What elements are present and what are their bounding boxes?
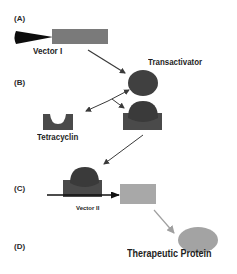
transactivator-complex-c xyxy=(63,167,102,197)
transactivator-complex-b xyxy=(123,101,162,130)
vector-1-label: Vector I xyxy=(33,46,62,56)
arrow-to-tetracyclin xyxy=(86,101,108,111)
arrow-gene-to-protein xyxy=(154,210,174,233)
vector-1-gene-rect xyxy=(52,29,108,44)
promoter-triangle-icon xyxy=(15,31,54,44)
arrow-to-transactivator xyxy=(108,90,129,101)
arrow-to-complex xyxy=(112,99,124,108)
transactivator-circle xyxy=(128,70,158,96)
panel-label-c: (C) xyxy=(14,184,25,193)
tetracyclin-shape xyxy=(43,114,73,130)
diagram-canvas xyxy=(0,0,237,274)
vector-2-gene-rect xyxy=(120,184,156,204)
transactivator-label: Transactivator xyxy=(148,57,202,67)
panel-label-d: (D) xyxy=(14,242,25,251)
arrow-complex-to-vector2 xyxy=(104,135,143,164)
panel-label-a: (A) xyxy=(14,14,25,23)
therapeutic-protein-label: Therapeutic Protein xyxy=(127,248,212,259)
vector-1-construct xyxy=(15,29,109,44)
panel-label-b: (B) xyxy=(14,78,25,87)
vector-2-label: Vector II xyxy=(76,205,99,211)
tetracyclin-label: Tetracyclin xyxy=(37,132,78,142)
arrow-vector1-to-transactivator xyxy=(88,50,125,73)
